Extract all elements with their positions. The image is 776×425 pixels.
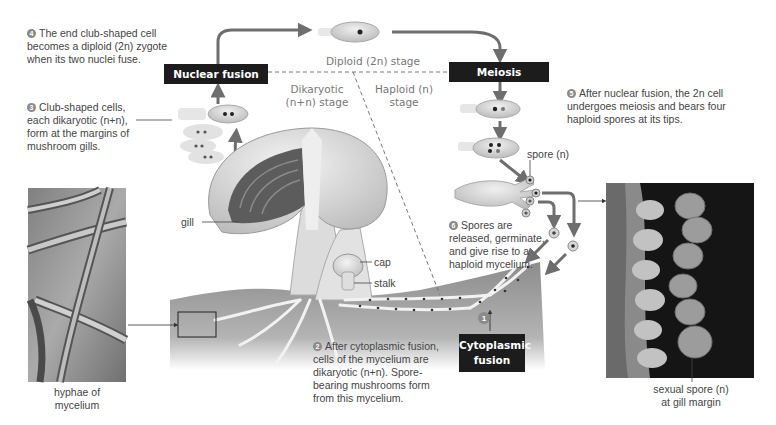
step-2-caption: 2After cytoplasmic fusion, cells of the … (313, 340, 463, 405)
cycle-arrow-to-meiosis (392, 32, 500, 56)
step-5-caption: 5After nuclear fusion, the 2n cell under… (567, 87, 757, 126)
hyphae-micrograph (28, 188, 126, 382)
haploid-stage-label: Haploid (n) stage (372, 83, 436, 109)
sexual-spore-label: sexual spore (n) at gill margin (636, 383, 746, 409)
dikaryotic-stage-label: Dikaryotic (n+n) stage (282, 83, 352, 109)
meiosis-cell-1 (460, 100, 520, 118)
gill-label: gill (181, 216, 194, 228)
step-2-number: 2 (313, 342, 322, 351)
hyphae-label: hyphae of mycelium (28, 386, 126, 412)
nuclear-fusion-box: Nuclear fusion (164, 64, 268, 84)
meiosis-cell-2 (458, 138, 519, 158)
cycle-arrow-top (218, 30, 305, 66)
mushroom-illustration (209, 128, 388, 300)
spore-label: spore (n) (527, 148, 569, 160)
step-5-number: 5 (567, 89, 576, 98)
svg-text:1: 1 (482, 314, 487, 323)
stalk-label: stalk (374, 277, 396, 289)
step-3-caption: 3Club-shaped cells, each dikaryotic (n+n… (27, 101, 147, 153)
basidium-with-spores (455, 176, 540, 217)
step-3-number: 3 (27, 103, 36, 112)
step-4-caption: 4The end club-shaped cell becomes a dipl… (27, 27, 187, 66)
step-6-number: 6 (449, 221, 458, 230)
diploid-stage-label: Diploid (2n) stage (318, 55, 428, 68)
step-6-caption: 6Spores are released, germinate, and giv… (449, 219, 549, 271)
spore-micrograph (606, 183, 754, 378)
cap-label: cap (374, 256, 391, 268)
step-4-number: 4 (27, 29, 36, 38)
diploid-zygote-cell (318, 22, 379, 42)
cytoplasmic-fusion-box: Cytoplasmic fusion (459, 334, 525, 372)
meiosis-box: Meiosis (449, 62, 549, 82)
